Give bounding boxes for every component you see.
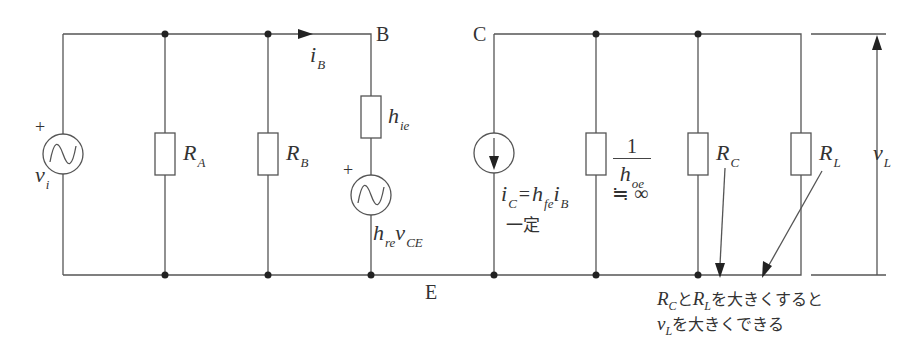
resistor-rb-icon — [258, 133, 278, 175]
hie-label: hie — [388, 105, 409, 127]
output-admittance-approx: ≒ ∞ — [612, 183, 648, 203]
resistor-rc-label: RC — [716, 142, 739, 164]
node-label-b: B — [376, 24, 389, 44]
feedback-source-label: hrevCE — [373, 222, 423, 244]
output-admittance-label: 1 hoe — [613, 136, 651, 187]
resistor-rl-label: RL — [819, 142, 841, 164]
resistor-rl-icon — [791, 133, 811, 175]
current-source-constant-note: 一定 — [506, 217, 540, 234]
current-source-label: iC=hfeiB — [501, 183, 569, 205]
annotation-line-2: vLを大きくできる — [657, 314, 784, 333]
input-voltage-label: vi — [35, 164, 49, 186]
feedback-voltage-source-icon — [351, 175, 391, 215]
input-source-plus: + — [35, 118, 45, 136]
annotation-line-1: RCとRLを大きくすると — [657, 289, 823, 308]
resistor-hie-icon — [361, 96, 381, 138]
annotation-arrows — [715, 168, 822, 278]
base-current-arrow-icon — [298, 29, 313, 39]
output-voltage-label: vL — [873, 142, 891, 164]
node-label-c: C — [473, 24, 486, 44]
base-current-label: iB — [310, 44, 325, 66]
node-label-e: E — [425, 282, 437, 302]
resistor-rc-icon — [688, 133, 708, 175]
resistor-hoe-icon — [586, 133, 606, 175]
feedback-source-plus: + — [343, 161, 353, 179]
resistor-rb-label: RB — [286, 142, 308, 164]
resistor-ra-icon — [155, 133, 175, 175]
dependent-current-source-icon — [474, 133, 514, 173]
resistor-ra-label: RA — [183, 142, 205, 164]
